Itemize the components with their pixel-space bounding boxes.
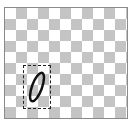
- selection-box[interactable]: [23, 65, 51, 109]
- ellipse-shape[interactable]: [24, 66, 50, 108]
- drawing-canvas[interactable]: [4, 7, 128, 119]
